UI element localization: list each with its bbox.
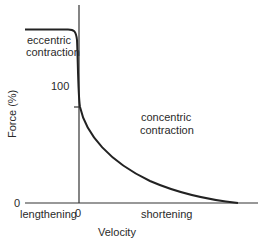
region-label-lengthening: lengthening <box>20 208 77 220</box>
y-axis-label: Force (%) <box>6 90 18 138</box>
x-axis-label: Velocity <box>98 226 136 238</box>
annotation-eccentric-contraction: contraction <box>26 46 80 58</box>
x-tick-label-0: 0 <box>75 207 81 219</box>
annotation-eccentric: eccentric <box>27 34 71 46</box>
annotation-concentric: concentric <box>141 111 191 123</box>
region-label-shortening: shortening <box>141 208 192 220</box>
annotation-concentric-contraction: contraction <box>140 124 194 136</box>
y-tick-label-100: 100 <box>51 80 69 92</box>
